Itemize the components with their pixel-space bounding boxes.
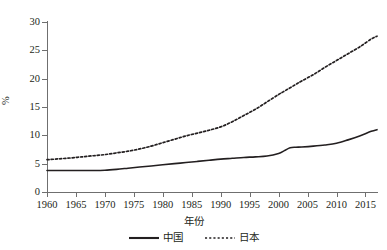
chart-legend: 中国日本 xyxy=(0,232,387,243)
series-line-china xyxy=(47,130,377,171)
series-container xyxy=(0,0,387,250)
legend-swatch-dotted xyxy=(205,234,235,242)
series-line-japan xyxy=(47,36,377,160)
legend-label: 日本 xyxy=(239,232,259,243)
legend-item[interactable]: 日本 xyxy=(205,232,259,243)
legend-item[interactable]: 中国 xyxy=(129,232,183,243)
legend-label: 中国 xyxy=(163,232,183,243)
line-chart: 051015202530 196019651970197519801985199… xyxy=(0,0,387,250)
legend-swatch-solid xyxy=(129,234,159,242)
